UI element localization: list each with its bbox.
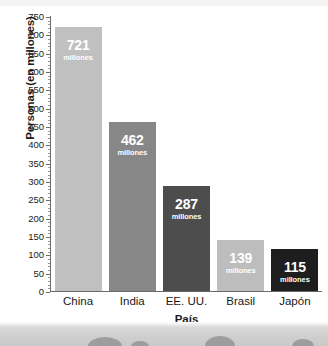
bar-value-label: 115 [271, 260, 318, 274]
y-tick-label: 600 [28, 67, 44, 77]
scan-artifact-bottom [0, 322, 328, 346]
y-tick-mark [46, 54, 50, 55]
y-tick-minor [48, 277, 50, 278]
y-tick-label: 100 [28, 251, 44, 261]
y-tick-minor [48, 189, 50, 190]
y-tick-minor [48, 123, 50, 124]
scan-artifact-top [0, 0, 328, 6]
y-tick-minor [48, 270, 50, 271]
x-category-label: Brasil [214, 295, 268, 307]
y-tick-label: 750 [28, 12, 44, 22]
y-tick-minor [48, 24, 50, 25]
y-tick-minor [48, 98, 50, 99]
bar-series: 721millones462millones287millones139mill… [51, 16, 322, 291]
y-tick-minor [48, 50, 50, 51]
y-tick-minor [48, 134, 50, 135]
y-tick-minor [48, 197, 50, 198]
y-tick-mark [46, 164, 50, 165]
y-tick-label: 650 [28, 49, 44, 59]
bar[interactable]: 287millones [163, 186, 210, 291]
y-tick-minor [48, 149, 50, 150]
y-tick-minor [48, 167, 50, 168]
bar[interactable]: 462millones [109, 122, 156, 291]
y-tick-minor [48, 79, 50, 80]
y-tick-minor [48, 263, 50, 264]
y-tick-minor [48, 252, 50, 253]
bar-value-label: 139 [217, 251, 264, 265]
y-tick-mark [46, 274, 50, 275]
y-tick-mark [46, 219, 50, 220]
y-tick-minor [48, 230, 50, 231]
y-tick-minor [48, 226, 50, 227]
y-tick-minor [48, 43, 50, 44]
y-tick-minor [48, 175, 50, 176]
x-category-label: Japón [268, 295, 322, 307]
y-tick-mark [46, 17, 50, 18]
y-tick-minor [48, 112, 50, 113]
y-tick-minor [48, 101, 50, 102]
y-tick-mark [46, 145, 50, 146]
x-axis-category-labels: ChinaIndiaEE. UU.BrasilJapón [51, 295, 322, 313]
y-tick-minor [48, 61, 50, 62]
y-tick-minor [48, 105, 50, 106]
y-tick-minor [48, 39, 50, 40]
y-tick-minor [48, 116, 50, 117]
y-tick-minor [48, 266, 50, 267]
y-tick-mark [46, 72, 50, 73]
y-tick-label: 450 [28, 122, 44, 132]
y-tick-minor [48, 241, 50, 242]
y-tick-minor [48, 171, 50, 172]
y-tick-minor [48, 160, 50, 161]
bar[interactable]: 139millones [217, 240, 264, 291]
scan-smudge [131, 341, 149, 346]
y-tick-label: 350 [28, 159, 44, 169]
y-tick-label: 300 [28, 177, 44, 187]
y-tick-mark [46, 127, 50, 128]
x-category-label: China [51, 295, 105, 307]
bar-unit-label: millones [271, 276, 318, 284]
y-tick-minor [48, 68, 50, 69]
y-tick-label: 200 [28, 214, 44, 224]
y-tick-minor [48, 186, 50, 187]
y-tick-minor [48, 138, 50, 139]
y-tick-minor [48, 211, 50, 212]
bar[interactable]: 115millones [271, 249, 318, 291]
x-category-label: India [105, 295, 159, 307]
y-tick-label: 500 [28, 104, 44, 114]
y-tick-mark [46, 237, 50, 238]
bar-value-label: 287 [163, 197, 210, 211]
y-tick-label: 50 [33, 269, 44, 279]
y-tick-mark [46, 292, 50, 293]
bar-value-label: 462 [109, 133, 156, 147]
plot-area: 0501001502002503003504004505005506006507… [50, 16, 322, 292]
y-tick-minor [48, 94, 50, 95]
y-tick-mark [46, 90, 50, 91]
bar-unit-label: millones [55, 54, 102, 62]
y-tick-label: 250 [28, 196, 44, 206]
y-tick-minor [48, 178, 50, 179]
y-tick-minor [48, 204, 50, 205]
bar-unit-label: millones [109, 149, 156, 157]
y-tick-minor [48, 285, 50, 286]
bar[interactable]: 721millones [55, 27, 102, 291]
y-tick-minor [48, 46, 50, 47]
y-tick-label: 0 [39, 287, 44, 297]
y-tick-minor [48, 142, 50, 143]
y-tick-minor [48, 288, 50, 289]
x-category-label: EE. UU. [159, 295, 213, 307]
chart-figure: Personas (en millones) 05010015020025030… [0, 0, 328, 346]
y-tick-minor [48, 156, 50, 157]
y-tick-mark [46, 35, 50, 36]
y-tick-minor [48, 65, 50, 66]
y-tick-minor [48, 233, 50, 234]
y-tick-minor [48, 259, 50, 260]
y-tick-minor [48, 131, 50, 132]
y-tick-minor [48, 28, 50, 29]
y-tick-minor [48, 244, 50, 245]
y-tick-minor [48, 215, 50, 216]
y-tick-label: 700 [28, 31, 44, 41]
bar-unit-label: millones [217, 267, 264, 275]
y-tick-minor [48, 21, 50, 22]
x-axis-line [50, 291, 322, 292]
y-tick-minor [48, 83, 50, 84]
